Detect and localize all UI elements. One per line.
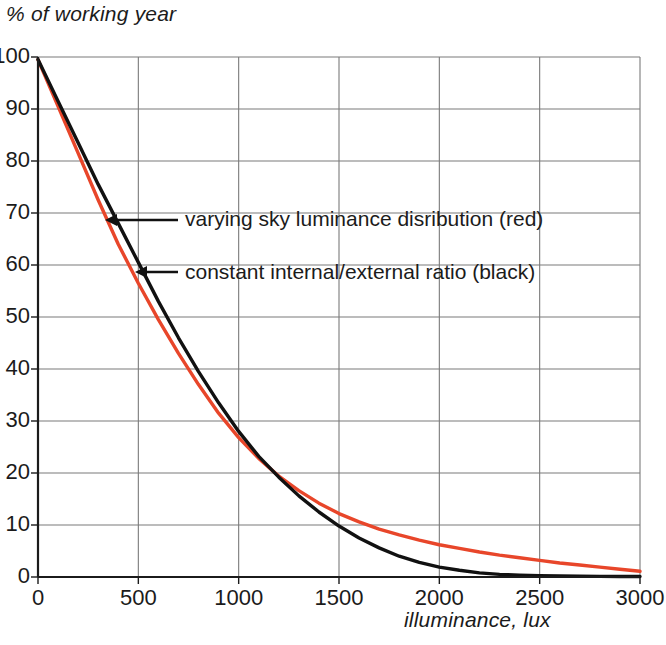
- y-tick-label: 40: [0, 355, 30, 381]
- tick-marks: [31, 57, 640, 584]
- y-tick-label: 90: [0, 95, 30, 121]
- y-tick-label: 10: [0, 511, 30, 537]
- x-tick-label: 1000: [199, 585, 279, 611]
- x-tick-label: 3000: [600, 585, 666, 611]
- annotation-label-black: constant internal/external ratio (black): [185, 260, 535, 284]
- y-tick-label: 50: [0, 303, 30, 329]
- x-tick-label: 2500: [500, 585, 580, 611]
- x-tick-label: 1500: [299, 585, 379, 611]
- grid-lines: [38, 57, 640, 577]
- y-tick-label: 100: [0, 43, 30, 69]
- y-tick-label: 60: [0, 251, 30, 277]
- x-tick-label: 2000: [399, 585, 479, 611]
- x-tick-label: 0: [0, 585, 78, 611]
- y-tick-label: 20: [0, 459, 30, 485]
- y-tick-label: 70: [0, 199, 30, 225]
- x-tick-label: 500: [98, 585, 178, 611]
- y-tick-label: 30: [0, 407, 30, 433]
- plot-area: [0, 0, 666, 645]
- annotation-label-red: varying sky luminance disribution (red): [185, 207, 543, 231]
- chart-container: % of working year illuminance, lux 01020…: [0, 0, 666, 645]
- y-tick-label: 80: [0, 147, 30, 173]
